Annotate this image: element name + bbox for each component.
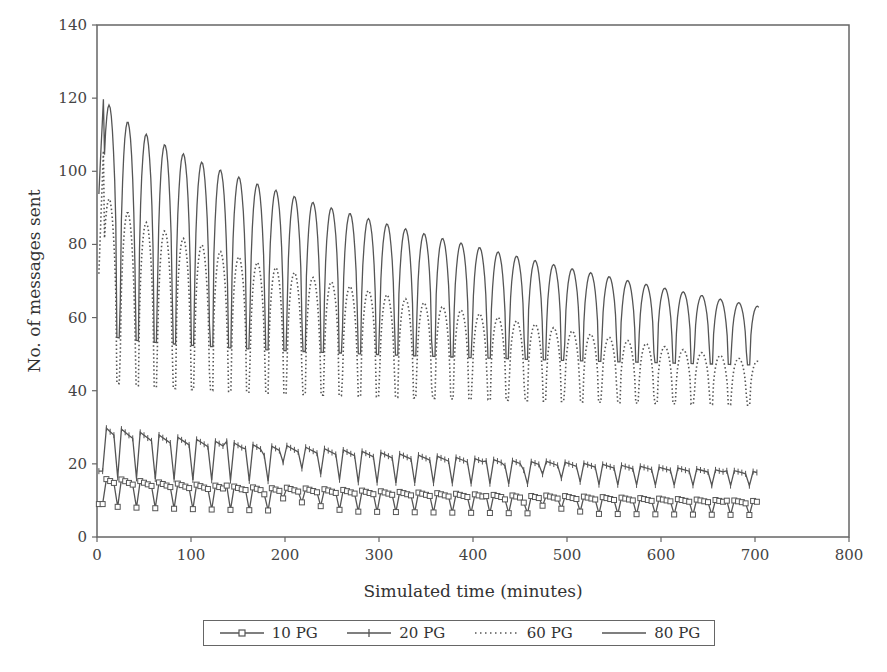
square-marker (243, 488, 248, 493)
square-marker (593, 497, 598, 502)
legend-item-20pg: 20 PG (345, 624, 445, 642)
square-marker (612, 497, 617, 502)
square-marker (754, 499, 759, 504)
square-marker (446, 494, 451, 499)
square-marker (352, 491, 357, 496)
legend-label: 80 PG (654, 624, 700, 642)
square-marker (266, 508, 271, 513)
square-marker (205, 487, 210, 492)
square-marker (630, 498, 635, 503)
y-tick-label: 40 (68, 382, 87, 400)
square-marker (487, 510, 492, 515)
x-axis: 0100200300400500600700800 (92, 537, 863, 564)
square-marker (518, 495, 523, 500)
square-marker (115, 504, 120, 509)
square-marker (431, 510, 436, 515)
legend-label: 10 PG (272, 624, 318, 642)
square-marker (672, 512, 677, 517)
square-marker (209, 507, 214, 512)
square-marker (408, 493, 413, 498)
square-marker (706, 500, 711, 505)
square-marker (525, 511, 530, 516)
square-marker (375, 509, 380, 514)
square-marker (653, 512, 658, 517)
y-tick-label: 0 (77, 528, 87, 546)
square-marker (314, 490, 319, 495)
series-line-20pg (99, 428, 757, 486)
square-marker (578, 509, 583, 514)
legend: 10 PG 20 PG 60 PG 80 PG (203, 620, 715, 646)
line-chart: 020406080100120140 010020030040050060070… (0, 0, 887, 620)
square-marker (743, 501, 748, 506)
square-marker (465, 495, 470, 500)
legend-item-80pg: 80 PG (600, 624, 700, 642)
x-tick-label: 800 (835, 546, 864, 564)
square-marker (393, 510, 398, 515)
y-tick-label: 80 (68, 235, 87, 253)
y-tick-label: 120 (58, 89, 87, 107)
x-tick-label: 0 (92, 546, 102, 564)
square-marker (649, 498, 654, 503)
square-marker (281, 496, 286, 501)
square-marker (130, 482, 135, 487)
square-marker (371, 492, 376, 497)
square-marker (540, 503, 545, 508)
square-marker (134, 505, 139, 510)
series-layer (96, 99, 759, 517)
square-marker (668, 499, 673, 504)
square-marker-icon (218, 628, 266, 638)
square-marker (724, 498, 729, 503)
square-marker (450, 510, 455, 515)
solid-line-icon (600, 628, 648, 638)
square-marker (228, 507, 233, 512)
square-marker (190, 507, 195, 512)
square-marker (412, 510, 417, 515)
square-marker (728, 512, 733, 517)
square-marker (536, 496, 541, 501)
square-marker (333, 490, 338, 495)
series-line-80pg (99, 99, 759, 365)
square-marker (277, 488, 282, 493)
legend-label: 60 PG (527, 624, 573, 642)
square-marker (559, 506, 564, 511)
square-marker (296, 489, 301, 494)
square-marker (100, 502, 105, 507)
square-marker (149, 483, 154, 488)
square-marker (555, 496, 560, 501)
square-marker (187, 486, 192, 491)
square-marker (687, 499, 692, 504)
x-tick-label: 200 (271, 546, 300, 564)
legend-label: 20 PG (399, 624, 445, 642)
square-marker (484, 494, 489, 499)
square-marker (318, 504, 323, 509)
square-marker (596, 511, 601, 516)
square-marker (709, 512, 714, 517)
square-marker (615, 512, 620, 517)
square-marker (634, 512, 639, 517)
legend-item-60pg: 60 PG (473, 624, 573, 642)
y-axis-title: No. of messages sent (24, 189, 44, 372)
square-marker (337, 507, 342, 512)
square-marker (506, 511, 511, 516)
x-tick-label: 500 (553, 546, 582, 564)
square-marker (690, 512, 695, 517)
y-tick-label: 60 (68, 309, 87, 327)
square-marker (262, 492, 267, 497)
y-tick-label: 140 (58, 16, 87, 34)
square-marker (172, 506, 177, 511)
square-marker (111, 480, 116, 485)
square-marker (168, 485, 173, 490)
y-tick-label: 20 (68, 455, 87, 473)
legend-item-10pg: 10 PG (218, 624, 318, 642)
square-marker (747, 512, 752, 517)
square-marker (427, 493, 432, 498)
x-tick-label: 300 (365, 546, 394, 564)
x-tick-label: 400 (459, 546, 488, 564)
square-marker (299, 500, 304, 505)
square-marker (247, 508, 252, 513)
square-marker (390, 492, 395, 497)
square-marker (356, 509, 361, 514)
y-tick-label: 100 (58, 162, 87, 180)
y-axis: 020406080100120140 (58, 16, 97, 546)
square-marker (224, 483, 229, 488)
